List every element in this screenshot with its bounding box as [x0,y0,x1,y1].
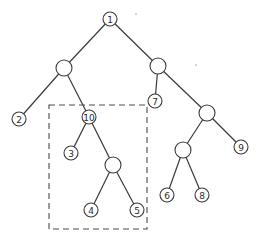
node-label: 9 [238,143,244,153]
tree-node-n9: 9 [234,140,248,154]
tree-node-n3: 3 [64,146,78,160]
node-circle [105,157,121,173]
scan-speck [195,64,197,66]
tree-node-b [150,58,166,74]
node-label: 3 [68,149,74,159]
node-circle [199,105,215,121]
tree-node-c [199,105,215,121]
tree-node-d [105,157,121,173]
node-label: 5 [134,206,140,216]
tree-diagram: 12107394568 [0,0,258,241]
tree-node-n1: 1 [103,12,117,26]
tree-node-n5: 5 [130,203,144,217]
tree-node-e [175,142,191,158]
node-circle [175,142,191,158]
edge-b-c [158,66,207,113]
edge-n1-a [64,19,110,68]
node-label: 2 [16,115,22,125]
tree-node-n6: 6 [160,188,174,202]
node-label: 6 [164,191,170,201]
nodes-layer: 12107394568 [12,12,248,217]
node-label: 1 [107,15,113,25]
node-label: 10 [83,113,95,123]
scan-speck [135,13,137,15]
tree-node-n7: 7 [148,94,162,108]
tree-node-n4: 4 [84,203,98,217]
tree-node-n2: 2 [12,112,26,126]
tree-node-a [56,60,72,76]
node-circle [56,60,72,76]
edge-n1-b [110,19,158,66]
node-label: 7 [152,97,158,107]
tree-node-n8: 8 [195,188,209,202]
edge-a-n2 [19,68,64,119]
node-label: 4 [88,206,94,216]
node-circle [150,58,166,74]
node-label: 8 [199,191,205,201]
tree-node-n10: 10 [82,110,96,124]
